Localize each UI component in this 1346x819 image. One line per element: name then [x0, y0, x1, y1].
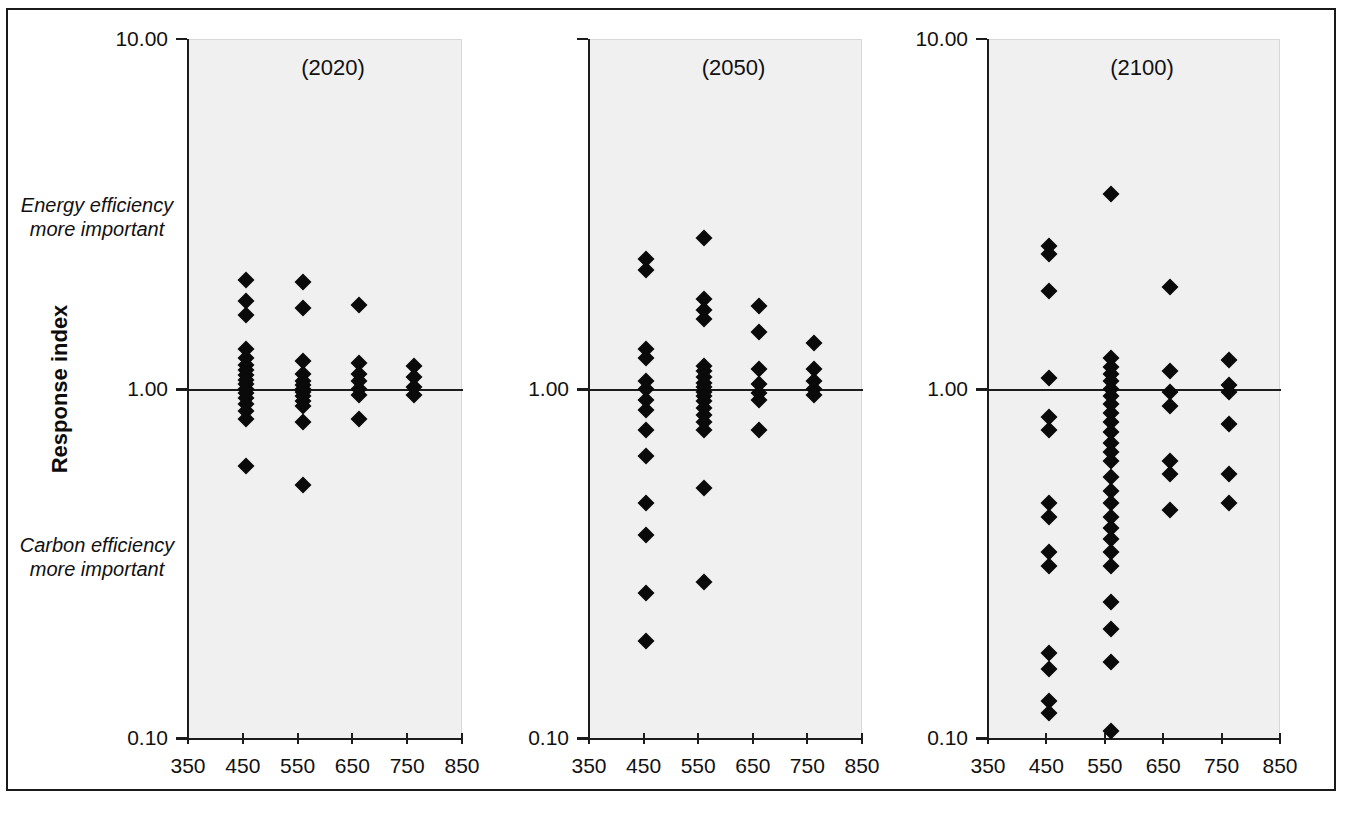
- x-tick: [1045, 733, 1047, 744]
- x-tick: [1162, 733, 1164, 744]
- panel-title: (2100): [1110, 55, 1174, 81]
- y-tick: [976, 388, 987, 390]
- x-tick: [987, 733, 989, 744]
- y-tick: [976, 38, 987, 40]
- x-tick-label: 750: [1204, 754, 1239, 778]
- x-tick-label: 350: [970, 754, 1005, 778]
- x-tick: [1279, 733, 1281, 744]
- x-tick-label: 450: [1029, 754, 1064, 778]
- y-tick-label: 10.00: [915, 27, 968, 51]
- x-tick-label: 650: [1146, 754, 1181, 778]
- x-tick-label: 850: [1262, 754, 1297, 778]
- panel-2100: 0.101.0010.00350450550650750850(2100): [0, 0, 1346, 819]
- figure-container: Response index Energy efficiency more im…: [0, 0, 1346, 819]
- x-tick: [1221, 733, 1223, 744]
- y-tick-label: 1.00: [927, 377, 968, 401]
- y-tick-label: 0.10: [927, 726, 968, 750]
- x-axis-line: [976, 738, 1281, 740]
- x-tick-label: 550: [1087, 754, 1122, 778]
- y-tick: [976, 737, 987, 739]
